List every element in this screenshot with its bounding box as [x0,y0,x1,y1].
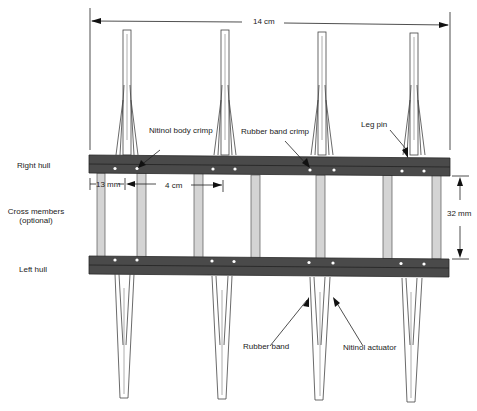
callout-nitinol-actuator: Nitinol actuator [343,343,396,352]
robot-diagram [0,0,477,411]
callout-nitinol-body-crimp: Nitinol body crimp [149,126,213,135]
lower-leg-3 [310,277,330,400]
edge-offset-label: 13 mm [96,180,120,189]
cross-members-text: Cross members [6,207,66,216]
lower-leg-4 [402,278,422,402]
label-right-hull: Right hull [17,161,50,170]
lower-legs [115,274,422,402]
left-hull [89,256,449,277]
callout-leg-pin: Leg pin [361,120,387,129]
lower-leg-1 [115,274,134,398]
callout-rubber-band-crimp: Rubber band crimp [241,127,309,136]
upper-legs [116,30,425,155]
upper-leg-1 [116,30,138,155]
lower-leg-2 [212,276,232,399]
overall-width-label: 14 cm [253,17,275,26]
upper-leg-4 [403,33,425,155]
label-cross-members: Cross members (optional) [6,207,66,225]
callout-rubber-band: Rubber band [243,342,289,351]
cross-members [97,173,441,259]
leg-spacing-label: 4 cm [165,181,182,190]
upper-leg-2 [214,30,236,155]
label-left-hull: Left hull [19,265,47,274]
hull-gap-label: 32 mm [447,209,471,218]
cross-members-note: (optional) [6,216,66,225]
upper-leg-3 [311,32,333,155]
